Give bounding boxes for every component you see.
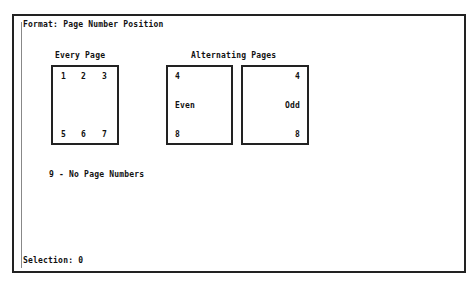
odd-label: Odd [285,101,300,111]
option-4-even[interactable]: 4 [175,72,180,82]
every-page-heading: Every Page [55,51,105,61]
option-9-no-page-numbers[interactable]: 9 - No Page Numbers [49,170,144,180]
left-margin-line [21,22,22,268]
option-3[interactable]: 3 [102,72,107,82]
even-page-diagram: 4 Even 8 [166,65,233,145]
screen-title: Format: Page Number Position [23,20,163,30]
option-7[interactable]: 7 [102,130,107,140]
option-8-odd[interactable]: 8 [295,130,300,140]
option-2[interactable]: 2 [81,72,86,82]
option-4-odd[interactable]: 4 [295,72,300,82]
option-6[interactable]: 6 [81,130,86,140]
alternating-pages-heading: Alternating Pages [191,51,276,61]
selection-prompt[interactable]: Selection: 0 [23,256,83,266]
option-8-even[interactable]: 8 [175,130,180,140]
option-1[interactable]: 1 [61,72,66,82]
option-5[interactable]: 5 [61,130,66,140]
even-label: Even [175,101,195,111]
every-page-diagram: 1 2 3 5 6 7 [51,65,119,145]
odd-page-diagram: 4 Odd 8 [241,65,309,145]
